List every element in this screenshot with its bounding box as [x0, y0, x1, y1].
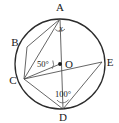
angle-value-a: x [58, 24, 63, 33]
chord-a-c [24, 19, 60, 79]
point-label-c: C [9, 74, 16, 86]
point-label-e: E [107, 56, 114, 68]
chord-a-b [27, 19, 60, 47]
center-point-dot [58, 62, 62, 66]
angle-value-d: 100° [55, 89, 71, 99]
point-label-b: B [11, 36, 18, 48]
geometry-canvas: A B C D E O x 50° 100° [0, 0, 119, 123]
point-label-d: D [59, 111, 67, 123]
circle-geometry-diagram: A B C D E O x 50° 100° [0, 0, 119, 123]
point-label-a: A [56, 1, 64, 13]
angle-value-c: 50° [37, 59, 49, 69]
center-label-o: O [65, 58, 73, 70]
